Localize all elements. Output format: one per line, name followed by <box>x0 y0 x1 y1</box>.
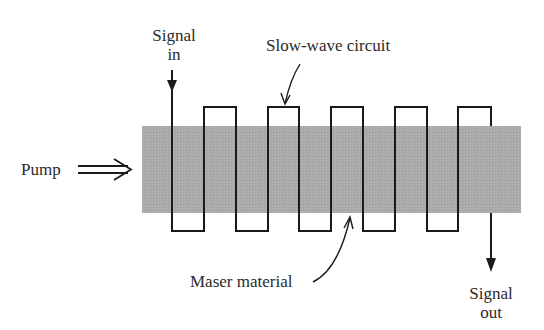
signal-out-label-line1: Signal <box>463 284 519 303</box>
slow-wave-leader-arrow <box>281 64 300 104</box>
signal-out-label-line2: out <box>463 303 519 322</box>
signal-out-arrow <box>486 213 496 272</box>
pump-label: Pump <box>21 160 61 179</box>
signal-in-arrow <box>167 70 177 127</box>
maser-material-leader-arrow <box>313 217 353 282</box>
slow-wave-circuit-label: Slow-wave circuit <box>266 36 390 55</box>
signal-out-label: Signal out <box>463 284 519 322</box>
signal-in-label-line1: Signal <box>146 26 202 45</box>
maser-material-label: Maser material <box>190 272 292 291</box>
maser-diagram: Signal in Slow-wave circuit Pump Maser m… <box>0 0 544 330</box>
pump-arrow <box>78 159 131 180</box>
signal-in-label-line2: in <box>146 45 202 64</box>
signal-in-label: Signal in <box>146 26 202 64</box>
